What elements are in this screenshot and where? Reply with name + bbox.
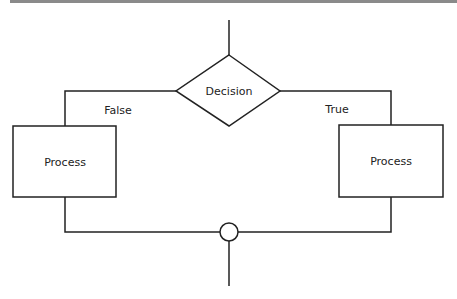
true-branch-label: True: [325, 103, 348, 116]
process-left-label: Process: [44, 156, 86, 169]
flowchart-canvas: [0, 0, 457, 299]
process-right-label: Process: [370, 155, 412, 168]
merge-connector[interactable]: [220, 223, 238, 241]
right-return-line: [238, 197, 391, 232]
decision-label: Decision: [206, 85, 253, 98]
left-return-line: [65, 197, 220, 232]
false-branch-label: False: [104, 104, 132, 117]
